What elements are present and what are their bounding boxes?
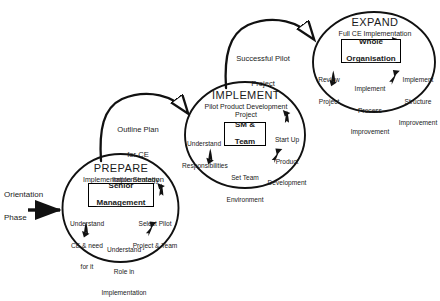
connector-label-line: Outline Plan — [95, 126, 181, 134]
core-line-1: Senior — [97, 182, 146, 191]
core-box-implement: SM &Team — [224, 122, 266, 146]
spoke-line: Understand — [182, 140, 226, 147]
spoke-line: Set Team — [215, 174, 275, 181]
spoke-implement-bottom: Set Team Environment — [215, 160, 275, 217]
spoke-line: Improvement — [340, 128, 400, 135]
spoke-line: Implementation — [91, 289, 157, 296]
spoke-line: Implement — [340, 85, 400, 92]
spoke-line: Implement — [396, 76, 440, 83]
spoke-line: Process — [340, 107, 400, 114]
phase-title-implement: IMPLEMENT — [203, 90, 289, 102]
spoke-line: Understand — [91, 246, 157, 253]
core-line-2: Organisation — [346, 55, 395, 64]
spoke-line: Role in — [91, 268, 157, 275]
connector-label-line: for CE — [95, 151, 181, 159]
spoke-prepare-bottom: Understand Role in Implementation — [91, 232, 157, 301]
core-box-implement-text: SM &Team — [235, 121, 255, 148]
spoke-line: Environment — [215, 196, 275, 203]
core-line-2: Team — [235, 138, 255, 147]
spoke-line: Understand — [59, 220, 115, 227]
spoke-line: Structure — [396, 98, 440, 105]
spoke-line: Start Up — [265, 136, 309, 143]
core-box-expand-text: WholeOrganisation — [346, 38, 395, 65]
phase-title-expand: EXPAND — [337, 17, 413, 29]
entry-label-line1: Orientation — [4, 191, 64, 200]
spoke-line: Select Pilot — [126, 220, 184, 227]
spoke-expand-bottom: Implement Process Improvement — [340, 71, 400, 149]
core-box-prepare: SeniorManagement — [88, 183, 154, 207]
connector-label-line: Project — [220, 80, 306, 88]
core-line-1: SM & — [235, 121, 255, 130]
phase-subtitle-implement: Pilot Product Development Project — [190, 103, 302, 118]
core-line-1: Whole — [346, 38, 395, 47]
connector-label-line: Successful Pilot — [220, 55, 306, 63]
spoke-line: Improvement — [396, 119, 440, 126]
phase-title-prepare: PREPARE — [80, 163, 162, 175]
core-box-prepare-text: SeniorManagement — [97, 182, 146, 209]
core-box-expand: WholeOrganisation — [341, 39, 401, 63]
entry-label-line2: Phase — [4, 214, 64, 223]
spoke-expand-right: Implement Structure Improvement — [396, 62, 440, 140]
